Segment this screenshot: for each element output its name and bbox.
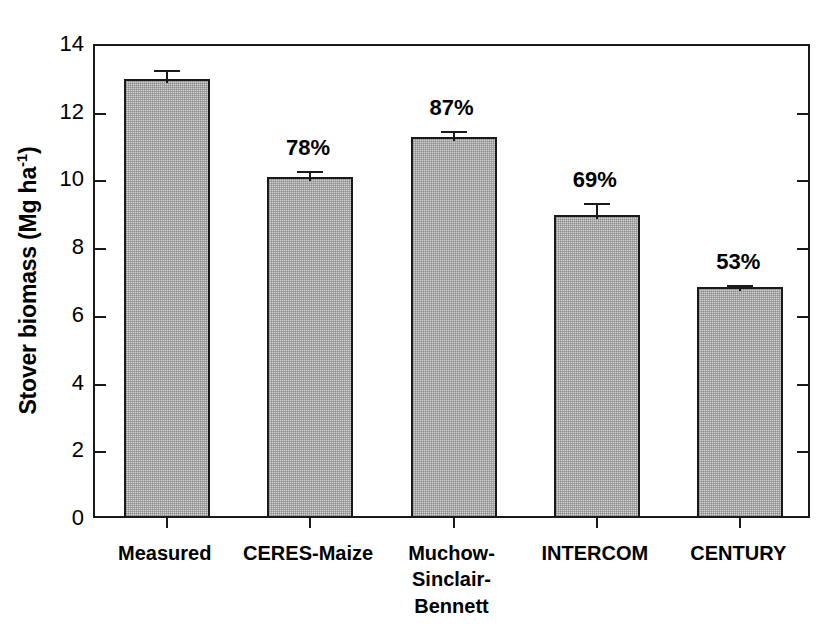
y-axis-tick-label: 2 [72, 437, 84, 463]
y-axis-title-container: Stover biomass (Mg ha-1) [0, 0, 56, 560]
x-axis-category-label: Muchow- Sinclair- Bennett [408, 540, 495, 619]
error-bar [596, 203, 598, 218]
error-bar-cap [727, 285, 753, 287]
y-axis-tick-mark-left [95, 113, 106, 115]
y-axis-tick-label: 0 [72, 505, 84, 531]
y-axis-tick-mark-right [797, 248, 808, 250]
y-axis-tick-label: 14 [60, 31, 84, 57]
bar-percentage-label: 87% [429, 95, 473, 121]
y-axis-title: Stover biomass (Mg ha-1) [15, 146, 42, 414]
y-axis-title-suffix: ) [15, 146, 41, 153]
x-axis-tick-mark [596, 517, 598, 528]
y-axis-tick-mark-right [797, 316, 808, 318]
error-bar-cap [584, 203, 610, 205]
y-axis-tick-labels: 02468101214 [50, 0, 92, 629]
y-axis-tick-mark-left [95, 316, 106, 318]
bar [697, 287, 783, 516]
bar-percentage-label: 53% [716, 249, 760, 275]
y-axis-tick-label: 10 [60, 166, 84, 192]
y-axis-tick-mark-right [797, 180, 808, 182]
x-axis-tick-mark [309, 517, 311, 528]
bar [267, 177, 353, 516]
x-axis-tick-mark [453, 517, 455, 528]
x-axis-category-label: CENTURY [690, 540, 786, 566]
bar-percentage-label: 78% [286, 135, 330, 161]
y-axis-tick-mark-left [95, 384, 106, 386]
y-axis-tick-mark-right [797, 384, 808, 386]
x-axis-category-label: Measured [118, 540, 211, 566]
bar [124, 79, 210, 516]
y-axis-title-superscript: -1 [13, 153, 30, 166]
y-axis-title-prefix: Stover biomass (Mg ha [15, 166, 41, 414]
x-axis-category-label: INTERCOM [542, 540, 649, 566]
error-bar-cap [297, 171, 323, 173]
x-axis-category-label: CERES-Maize [243, 540, 373, 566]
error-bar-cap [154, 70, 180, 72]
y-axis-tick-label: 12 [60, 99, 84, 125]
chart-figure: Stover biomass (Mg ha-1) 02468101214 Mea… [0, 0, 832, 629]
x-axis-tick-mark [739, 517, 741, 528]
y-axis-tick-mark-left [95, 248, 106, 250]
bar [411, 137, 497, 516]
y-axis-tick-mark-left [95, 180, 106, 182]
y-axis-tick-mark-left [95, 451, 106, 453]
y-axis-tick-label: 6 [72, 302, 84, 328]
bar [554, 215, 640, 516]
y-axis-tick-label: 8 [72, 234, 84, 260]
x-axis-tick-mark [166, 517, 168, 528]
y-axis-tick-mark-right [797, 451, 808, 453]
y-axis-tick-label: 4 [72, 370, 84, 396]
error-bar-cap [441, 131, 467, 133]
bar-percentage-label: 69% [573, 167, 617, 193]
y-axis-tick-mark-right [797, 113, 808, 115]
